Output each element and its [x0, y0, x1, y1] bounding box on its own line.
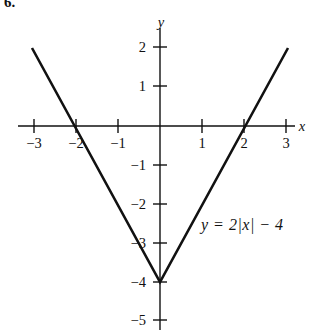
y-tick-label-pos2: 2 — [139, 39, 146, 55]
x-tick-label-pos3: 3 — [282, 135, 289, 151]
x-axis-tick-labels: −3 −2 −1 1 2 3 — [26, 135, 289, 151]
x-axis-label: x — [298, 118, 306, 134]
y-axis-tick-labels: 2 1 −1 −2 −3 −4 −5 — [131, 39, 147, 328]
y-tick-label-neg4: −4 — [131, 274, 147, 290]
x-tick-label-pos2: 2 — [240, 135, 247, 151]
equation-annotation: y = 2|x| − 4 — [201, 216, 284, 234]
y-tick-label-neg5: −5 — [131, 312, 146, 328]
coordinate-plane: −3 −2 −1 1 2 3 2 1 −1 −2 −3 −4 −5 x y — [0, 0, 312, 335]
x-tick-label-neg1: −1 — [110, 135, 125, 151]
x-tick-label-neg3: −3 — [26, 135, 41, 151]
y-tick-label-neg1: −1 — [131, 157, 146, 173]
y-tick-label-neg2: −2 — [131, 196, 146, 212]
x-tick-label-pos1: 1 — [198, 135, 205, 151]
y-axis-label: y — [156, 14, 165, 30]
graph-figure: 6. −3 −2 −1 1 — [0, 0, 312, 335]
y-tick-label-pos1: 1 — [139, 78, 146, 94]
